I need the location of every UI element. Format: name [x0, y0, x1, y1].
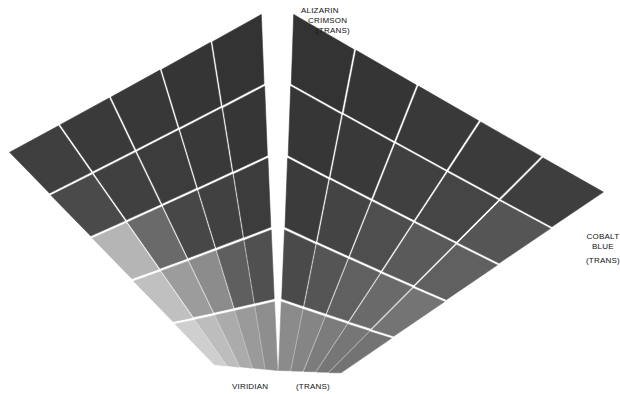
label-line: CRIMSON: [301, 16, 350, 26]
label-line: (TRANS): [301, 26, 350, 36]
label-line: ALIZARIN: [301, 6, 350, 16]
pyramid-diagram: [0, 0, 620, 394]
label-cobalt-blue: COBALT BLUE (TRANS): [586, 232, 620, 266]
label-alizarin-crimson: ALIZARIN CRIMSON (TRANS): [301, 6, 350, 36]
viridian-face: [10, 15, 278, 371]
label-line: (TRANS): [586, 256, 620, 266]
label-viridian: VIRIDIAN: [232, 382, 268, 392]
label-viridian-trans: (TRANS): [296, 382, 330, 392]
cobalt-face: [279, 14, 604, 372]
label-line: BLUE: [586, 242, 620, 252]
label-line: COBALT: [586, 232, 620, 242]
paint-mixing-pyramid: ALIZARIN CRIMSON (TRANS) COBALT BLUE (TR…: [0, 0, 620, 394]
